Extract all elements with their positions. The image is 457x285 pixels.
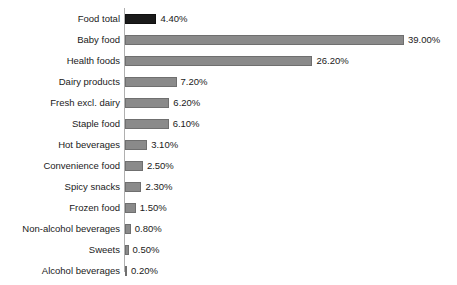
bar-row: Food total4.40% [0, 9, 457, 30]
value-label: 2.30% [145, 180, 172, 193]
category-label: Fresh excl. dairy [50, 96, 120, 109]
bar [125, 266, 127, 276]
bar-row: Baby food39.00% [0, 30, 457, 51]
category-label: Dairy products [59, 75, 120, 88]
bar-row: Fresh excl. dairy6.20% [0, 93, 457, 114]
bar-rows: Food total4.40%Baby food39.00%Health foo… [0, 9, 457, 282]
bar-row: Spicy snacks2.30% [0, 177, 457, 198]
bar-row: Health foods26.20% [0, 51, 457, 72]
bar-chart: Food total4.40%Baby food39.00%Health foo… [0, 0, 457, 285]
value-label: 2.50% [147, 159, 174, 172]
bar [125, 56, 312, 66]
value-label: 39.00% [408, 33, 440, 46]
value-label: 7.20% [181, 75, 208, 88]
value-label: 1.50% [140, 201, 167, 214]
bar-row: Convenience food2.50% [0, 156, 457, 177]
bar [125, 35, 404, 45]
bar-row: Sweets0.50% [0, 240, 457, 261]
category-label: Baby food [77, 33, 120, 46]
bar-row: Non-alcohol beverages0.80% [0, 219, 457, 240]
bar [125, 140, 147, 150]
bar [125, 203, 136, 213]
category-label: Health foods [67, 54, 120, 67]
value-label: 0.20% [131, 264, 158, 277]
value-label: 26.20% [316, 54, 348, 67]
value-label: 0.50% [133, 243, 160, 256]
category-label: Hot beverages [58, 138, 120, 151]
bar-row: Alcohol beverages0.20% [0, 261, 457, 282]
bar [125, 245, 129, 255]
value-label: 6.20% [173, 96, 200, 109]
bar-row: Frozen food1.50% [0, 198, 457, 219]
bar [125, 77, 177, 87]
bar [125, 119, 169, 129]
category-label: Alcohol beverages [42, 264, 120, 277]
value-label: 3.10% [151, 138, 178, 151]
value-label: 4.40% [160, 12, 187, 25]
category-label: Non-alcohol beverages [22, 222, 120, 235]
bar-row: Hot beverages3.10% [0, 135, 457, 156]
bar-row: Staple food6.10% [0, 114, 457, 135]
plot-area: Food total4.40%Baby food39.00%Health foo… [0, 0, 457, 285]
value-label: 6.10% [173, 117, 200, 130]
category-label: Frozen food [69, 201, 120, 214]
bar [125, 161, 143, 171]
category-label: Food total [78, 12, 120, 25]
category-label: Staple food [72, 117, 120, 130]
bar [125, 98, 169, 108]
category-label: Sweets [89, 243, 120, 256]
category-label: Spicy snacks [65, 180, 120, 193]
bar [125, 224, 131, 234]
bar-row: Dairy products7.20% [0, 72, 457, 93]
category-label: Convenience food [43, 159, 120, 172]
value-label: 0.80% [135, 222, 162, 235]
bar [125, 182, 141, 192]
bar [125, 14, 156, 24]
